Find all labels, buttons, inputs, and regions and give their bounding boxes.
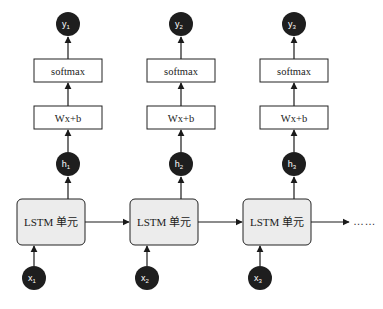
svg-text:LSTM 单元: LSTM 单元 [24,216,78,228]
linear-box-2: Wx+b [147,106,215,129]
figure-caption-cutoff [0,300,383,309]
lstm-cell-1: LSTM 单元 [17,199,85,245]
softmax-box-1: softmax [34,59,102,82]
svg-text:Wx+b: Wx+b [168,113,194,124]
timestep-2: y2 softmax Wx+b h2 LSTM 单元 x2 [130,12,215,290]
input-node-x2: x2 [135,266,159,290]
timestep-3: y3 softmax Wx+b h3 LSTM 单元 x3 [243,12,328,290]
lstm-cell-3: LSTM 单元 [243,199,311,245]
output-node-y2: y2 [169,12,193,36]
input-node-x3: x3 [248,266,272,290]
softmax-box-2: softmax [147,59,215,82]
lstm-cell-2: LSTM 单元 [130,199,198,245]
svg-text:LSTM 单元: LSTM 单元 [250,216,304,228]
linear-box-1: Wx+b [34,106,102,129]
hidden-node-h1: h1 [56,152,80,176]
svg-text:softmax: softmax [277,66,312,77]
svg-text:Wx+b: Wx+b [55,113,81,124]
output-node-y1: y1 [56,12,80,36]
svg-text:softmax: softmax [164,66,199,77]
linear-box-3: Wx+b [260,106,328,129]
lstm-diagram: y1 softmax Wx+b h1 LSTM 单元 x1 [0,0,383,309]
softmax-box-3: softmax [260,59,328,82]
svg-text:LSTM 单元: LSTM 单元 [137,216,191,228]
input-node-x1: x1 [22,266,46,290]
hidden-node-h2: h2 [169,152,193,176]
continuation-ellipsis: …… [353,215,376,227]
svg-text:Wx+b: Wx+b [281,113,307,124]
timestep-1: y1 softmax Wx+b h1 LSTM 单元 x1 [17,12,102,290]
hidden-node-h3: h3 [282,152,306,176]
output-node-y3: y3 [282,12,306,36]
svg-text:softmax: softmax [51,66,86,77]
